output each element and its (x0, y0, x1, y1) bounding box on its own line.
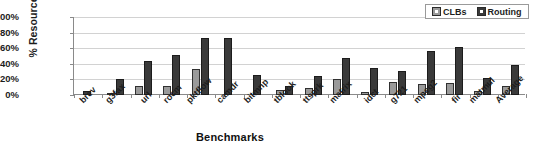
y-axis-tick-label: 0% (0, 90, 19, 100)
legend-item-clbs: CLBs (432, 7, 467, 17)
x-axis-label-cell: Average (497, 97, 525, 139)
bar-group (356, 17, 384, 95)
x-axis-label-cell: mpeg2 (412, 97, 440, 139)
bar-group (384, 17, 412, 95)
x-axis-label-cell: matrix (327, 97, 355, 139)
legend-label-clbs: CLBs (443, 7, 467, 17)
bar-group (440, 17, 468, 95)
x-axis-label-cell: g721 (384, 97, 412, 139)
bar-group (158, 17, 186, 95)
x-axis-label-cell: g3fax (101, 97, 129, 139)
x-axis-title: Benchmarks (150, 131, 310, 143)
x-axis-label-cell: brev (73, 97, 101, 139)
bar-routing-fir (455, 47, 463, 95)
y-axis-tick-label: 40% (0, 59, 19, 69)
legend-swatch-routing-icon (477, 7, 486, 16)
y-axis-tick-label: 20% (0, 74, 19, 84)
y-axis-tick-label: 60% (0, 43, 19, 53)
x-axis-label-cell: idct (356, 97, 384, 139)
bar-group (73, 17, 101, 95)
y-axis-tick-label: 100% (0, 12, 19, 22)
legend-label-routing: Routing (488, 7, 522, 17)
y-axis-title: % Resources (27, 0, 39, 64)
bar-group (299, 17, 327, 95)
bar-groups (73, 17, 525, 95)
chart-legend: CLBs Routing (425, 4, 529, 19)
bar-group (130, 17, 158, 95)
x-axis-tick (526, 94, 527, 98)
bar-group (101, 17, 129, 95)
x-axis-label-cell: matmul (469, 97, 497, 139)
y-axis-tick-label: 80% (0, 28, 19, 38)
bar-chart: % Resources 100%80%60%40%20%0% brevg3fax… (0, 0, 548, 155)
legend-item-routing: Routing (477, 7, 522, 17)
x-axis-label-cell: fir (440, 97, 468, 139)
legend-swatch-clbs-icon (432, 7, 441, 16)
